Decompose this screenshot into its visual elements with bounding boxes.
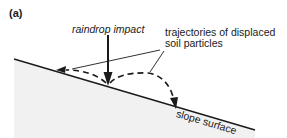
leader-line-downslope — [150, 51, 164, 72]
raindrop-arrowhead-icon — [104, 72, 113, 86]
soil-splash-diagram — [0, 0, 287, 138]
trajectories-label-line2: soil particles — [165, 38, 275, 49]
trajectories-label: trajectories of displaced soil particles — [165, 27, 275, 48]
panel-label: (a) — [9, 8, 22, 19]
raindrop-impact-label: raindrop impact — [72, 24, 144, 35]
trajectories-label-line1: trajectories of displaced — [165, 27, 275, 38]
leader-line-upslope — [72, 50, 160, 69]
